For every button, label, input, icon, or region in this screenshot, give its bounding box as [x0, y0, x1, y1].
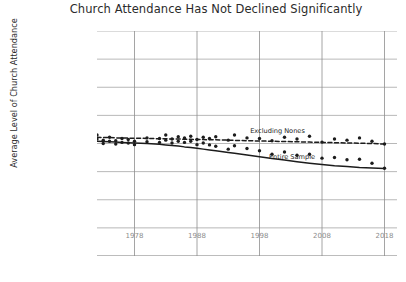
data-point	[127, 141, 130, 144]
data-point	[283, 136, 286, 139]
data-point	[358, 136, 361, 139]
data-point	[333, 156, 336, 159]
data-point	[164, 133, 167, 136]
plot-area	[97, 31, 397, 256]
data-point	[120, 137, 123, 140]
data-point	[170, 137, 173, 140]
trend-line-entire-sample	[97, 141, 385, 168]
data-point	[333, 137, 336, 140]
data-point	[270, 139, 273, 142]
data-point	[114, 142, 117, 145]
data-point	[383, 167, 386, 170]
data-point	[183, 141, 186, 144]
series-annotation: Excluding Nones	[250, 127, 305, 135]
data-point	[158, 141, 161, 144]
chart-title: Church Attendance Has Not Declined Signi…	[0, 2, 406, 16]
data-point	[233, 144, 236, 147]
data-point	[202, 141, 205, 144]
data-point	[245, 136, 248, 139]
data-point	[383, 142, 386, 145]
data-point	[189, 140, 192, 143]
data-point	[195, 138, 198, 141]
data-point	[358, 158, 361, 161]
data-point	[208, 137, 211, 140]
data-point	[158, 137, 161, 140]
x-axis-tick-label: 2018	[365, 232, 405, 240]
data-point	[370, 140, 373, 143]
data-point	[245, 147, 248, 150]
data-point	[189, 134, 192, 137]
data-point	[208, 143, 211, 146]
data-point	[120, 141, 123, 144]
data-point	[320, 140, 323, 143]
data-point	[170, 141, 173, 144]
data-point	[345, 158, 348, 161]
data-point	[164, 138, 167, 141]
data-point	[114, 139, 117, 142]
x-axis-tick-label: 1998	[240, 232, 280, 240]
x-axis-tick-label: 1978	[115, 232, 155, 240]
plot-svg	[97, 31, 397, 256]
x-axis-tick-label: 1988	[177, 232, 217, 240]
data-point	[320, 156, 323, 159]
y-axis-title: Average Level of Church Attendance	[9, 0, 19, 193]
data-point	[370, 161, 373, 164]
data-point	[108, 140, 111, 143]
data-point	[308, 134, 311, 137]
data-point	[227, 147, 230, 150]
data-point	[102, 142, 105, 145]
data-point	[145, 136, 148, 139]
series-annotation: Entire Sample	[269, 153, 315, 161]
x-axis-tick-label: 2008	[302, 232, 342, 240]
data-point	[214, 145, 217, 148]
data-point	[108, 136, 111, 139]
data-point	[345, 138, 348, 141]
data-point	[295, 137, 298, 140]
data-point	[258, 149, 261, 152]
data-point	[127, 138, 130, 141]
data-point	[133, 143, 136, 146]
data-point	[183, 136, 186, 139]
data-point	[202, 136, 205, 139]
data-point	[258, 137, 261, 140]
chart-figure: Church Attendance Has Not Declined Signi…	[0, 0, 406, 282]
data-point	[177, 135, 180, 138]
data-point	[133, 140, 136, 143]
data-point	[177, 140, 180, 143]
data-point	[233, 133, 236, 136]
data-point	[97, 133, 99, 136]
data-point	[227, 138, 230, 141]
data-point	[195, 143, 198, 146]
data-point	[214, 135, 217, 138]
data-point	[102, 138, 105, 141]
data-point	[145, 140, 148, 143]
